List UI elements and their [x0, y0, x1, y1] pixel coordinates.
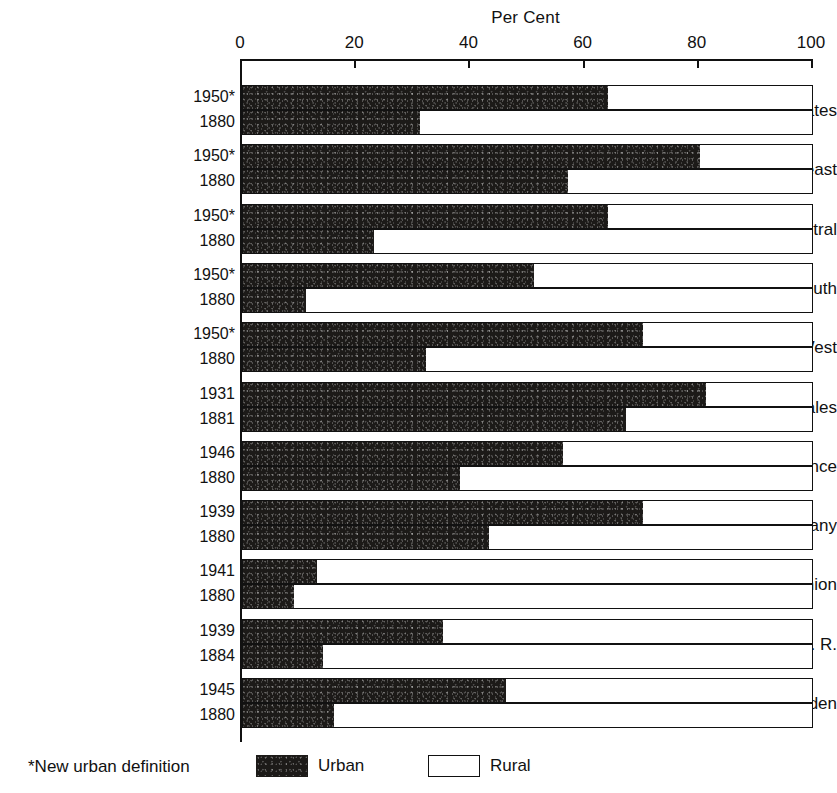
- year-label: 1880: [185, 350, 235, 368]
- bar-segment-rural: [334, 704, 812, 727]
- chart-title: Per Cent: [240, 8, 811, 28]
- stacked-bar: [242, 263, 813, 288]
- bar-segment-rural: [506, 679, 812, 702]
- bar-segment-rural: [374, 230, 812, 253]
- bar-segment-urban: [243, 323, 643, 346]
- legend-label-urban: Urban: [318, 756, 364, 776]
- bar-segment-rural: [643, 501, 812, 524]
- chart-legend: *New urban definition Urban Rural: [28, 755, 818, 781]
- stacked-bar: [242, 229, 813, 254]
- bar-segment-urban: [243, 145, 700, 168]
- bar-segment-rural: [568, 170, 812, 193]
- stacked-bar: [242, 169, 813, 194]
- x-tick-label-60: 60: [573, 33, 592, 53]
- year-label: 1950*: [185, 266, 235, 284]
- stacked-bar: [242, 85, 813, 110]
- stacked-bar: [242, 500, 813, 525]
- bar-segment-rural: [608, 205, 812, 228]
- bar-segment-urban: [243, 442, 563, 465]
- bar-segment-urban: [243, 645, 323, 668]
- bar-segment-rural: [706, 383, 813, 406]
- bar-segment-urban: [243, 289, 306, 312]
- bar-segment-rural: [563, 442, 812, 465]
- x-tick-mark-0: [240, 59, 242, 68]
- x-tick-label-40: 40: [459, 33, 478, 53]
- year-label: 1950*: [185, 147, 235, 165]
- bar-segment-urban: [243, 348, 426, 371]
- stacked-bar: [242, 619, 813, 644]
- x-axis-line: [240, 59, 811, 61]
- bar-segment-urban: [243, 86, 608, 109]
- bar-segment-urban: [243, 170, 568, 193]
- legend-item-rural: Rural: [428, 755, 531, 777]
- stacked-bar: [242, 644, 813, 669]
- x-tick-label-100: 100: [797, 33, 825, 53]
- stacked-bar: [242, 441, 813, 466]
- legend-item-urban: Urban: [256, 755, 364, 777]
- bar-segment-urban: [243, 408, 626, 431]
- urban-swatch-icon: [256, 755, 308, 777]
- year-label: 1880: [185, 706, 235, 724]
- bar-segment-urban: [243, 467, 460, 490]
- bar-segment-urban: [243, 264, 534, 287]
- bar-segment-rural: [608, 86, 812, 109]
- urbanization-bar-chart: Per Cent 020406080100 United States1950*…: [0, 0, 837, 793]
- year-label: 1884: [185, 647, 235, 665]
- stacked-bar: [242, 204, 813, 229]
- x-tick-mark-40: [468, 59, 470, 68]
- bar-segment-rural: [294, 585, 812, 608]
- bar-segment-rural: [626, 408, 812, 431]
- x-tick-mark-20: [354, 59, 356, 68]
- stacked-bar: [242, 525, 813, 550]
- stacked-bar: [242, 322, 813, 347]
- year-label: 1939: [185, 622, 235, 640]
- stacked-bar: [242, 703, 813, 728]
- x-tick-mark-100: [811, 59, 813, 68]
- bar-segment-rural: [489, 526, 812, 549]
- bar-segment-rural: [700, 145, 812, 168]
- stacked-bar: [242, 144, 813, 169]
- bar-segment-rural: [426, 348, 812, 371]
- bar-segment-urban: [243, 704, 334, 727]
- stacked-bar: [242, 584, 813, 609]
- bar-segment-urban: [243, 501, 643, 524]
- year-label: 1880: [185, 291, 235, 309]
- year-label: 1880: [185, 469, 235, 487]
- year-label: 1950*: [185, 88, 235, 106]
- x-tick-label-0: 0: [235, 33, 244, 53]
- stacked-bar: [242, 466, 813, 491]
- x-tick-label-20: 20: [345, 33, 364, 53]
- bar-segment-urban: [243, 205, 608, 228]
- year-label: 1880: [185, 232, 235, 250]
- footnote-new-urban-definition: *New urban definition: [28, 757, 190, 777]
- bar-segment-urban: [243, 585, 294, 608]
- bar-segment-rural: [460, 467, 812, 490]
- bar-segment-rural: [534, 264, 812, 287]
- stacked-bar: [242, 382, 813, 407]
- year-label: 1941: [185, 562, 235, 580]
- stacked-bar: [242, 678, 813, 703]
- bar-segment-urban: [243, 620, 443, 643]
- bar-segment-rural: [643, 323, 812, 346]
- x-axis-tick-labels: 020406080100: [0, 33, 837, 55]
- year-label: 1939: [185, 503, 235, 521]
- bar-segment-urban: [243, 383, 706, 406]
- year-label: 1950*: [185, 207, 235, 225]
- year-label: 1881: [185, 410, 235, 428]
- stacked-bar: [242, 347, 813, 372]
- year-label: 1880: [185, 113, 235, 131]
- year-label: 1950*: [185, 325, 235, 343]
- bar-segment-urban: [243, 526, 489, 549]
- bar-segment-rural: [443, 620, 812, 643]
- stacked-bar: [242, 559, 813, 584]
- year-label: 1880: [185, 528, 235, 546]
- stacked-bar: [242, 288, 813, 313]
- stacked-bar: [242, 110, 813, 135]
- x-tick-mark-80: [697, 59, 699, 68]
- rural-swatch-icon: [428, 755, 480, 777]
- x-tick-mark-60: [583, 59, 585, 68]
- bar-segment-rural: [317, 560, 812, 583]
- bar-segment-urban: [243, 111, 420, 134]
- year-label: 1931: [185, 385, 235, 403]
- bar-segment-rural: [306, 289, 812, 312]
